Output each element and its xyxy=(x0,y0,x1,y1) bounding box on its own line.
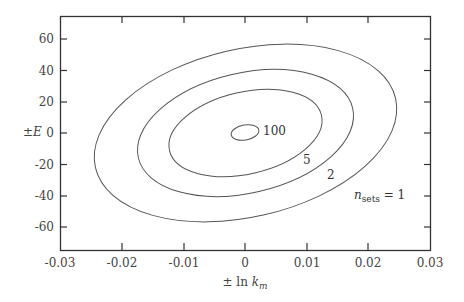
x-ticks xyxy=(122,16,368,250)
x-tick-neg001: -0.01 xyxy=(169,256,200,270)
label-5: 5 xyxy=(303,153,311,167)
x-tick-001: 0.01 xyxy=(294,256,321,270)
x-tick-002: 0.02 xyxy=(355,256,382,270)
x-tick-neg003: -0.03 xyxy=(45,256,76,270)
plot-frame xyxy=(61,17,431,251)
contour-nsets-1 xyxy=(77,17,415,250)
label-nsets-1: nsets = 1 xyxy=(354,188,405,204)
contour-100 xyxy=(230,123,260,143)
contour-5 xyxy=(160,76,330,191)
x-axis-title: ± ln km xyxy=(222,275,267,291)
y-tick-neg60: -60 xyxy=(35,220,54,234)
label-2: 2 xyxy=(327,168,335,182)
y-axis-title: ±E xyxy=(23,125,42,139)
contour-2 xyxy=(125,50,366,216)
label-100: 100 xyxy=(263,124,286,138)
y-tick-20: 20 xyxy=(39,95,54,109)
x-tick-neg002: -0.02 xyxy=(107,256,138,270)
y-tick-neg20: -20 xyxy=(35,158,54,172)
y-tick-40: 40 xyxy=(39,64,54,78)
y-tick-60: 60 xyxy=(39,32,54,46)
contours xyxy=(77,17,415,250)
y-tick-neg40: -40 xyxy=(35,189,54,203)
x-tick-0: 0 xyxy=(241,256,249,270)
y-tick-0: 0 xyxy=(46,126,54,140)
x-tick-003: 0.03 xyxy=(417,256,444,270)
